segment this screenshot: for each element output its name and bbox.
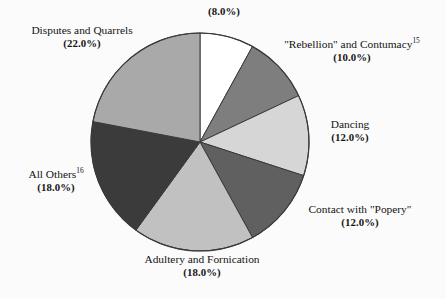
slice-label-percent: (10.0%) (258, 51, 446, 64)
slice-label-name: "Rebellion" and Contumacy15 (258, 38, 446, 51)
slice-label-disputes-and-quarrels: Disputes and Quarrels (22.0%) (4, 24, 160, 50)
slice-label-adultery-and-fornication: Adultery and Fornication (18.0%) (104, 253, 300, 279)
slice-label-percent: (18.0%) (2, 181, 110, 194)
slice-label-name: Adultery and Fornication (104, 253, 300, 266)
slice-label-name: Dancing (296, 118, 404, 131)
slice-label-footnote: 16 (76, 166, 83, 175)
slice-label-name: All Others16 (2, 168, 110, 181)
slice-label-dancing: Dancing (12.0%) (296, 118, 404, 144)
slice-label-percent: (22.0%) (4, 37, 160, 50)
slice-label-percent: (8.0%) (168, 5, 280, 18)
slice-label-name-text: "Rebellion" and Contumacy (284, 38, 412, 50)
slice-label-all-others: All Others16 (18.0%) (2, 168, 110, 194)
slice-label-rebellion-and-contumacy: "Rebellion" and Contumacy15 (10.0%) (258, 38, 446, 64)
slice-label-percent: (18.0%) (104, 266, 300, 279)
slice-label-percent: (12.0%) (276, 216, 444, 229)
slice-label-name-text: All Others (28, 168, 76, 180)
slice-label-unnamed: (8.0%) (168, 5, 280, 18)
slice-label-footnote: 15 (412, 36, 419, 45)
slice-label-percent: (12.0%) (296, 131, 404, 144)
slice-label-contact-with-popery: Contact with "Popery" (12.0%) (276, 203, 444, 229)
pie-chart-figure: (8.0%) "Rebellion" and Contumacy15 (10.0… (0, 0, 446, 299)
slice-label-name: Disputes and Quarrels (4, 24, 160, 37)
slice-label-name: Contact with "Popery" (276, 203, 444, 216)
